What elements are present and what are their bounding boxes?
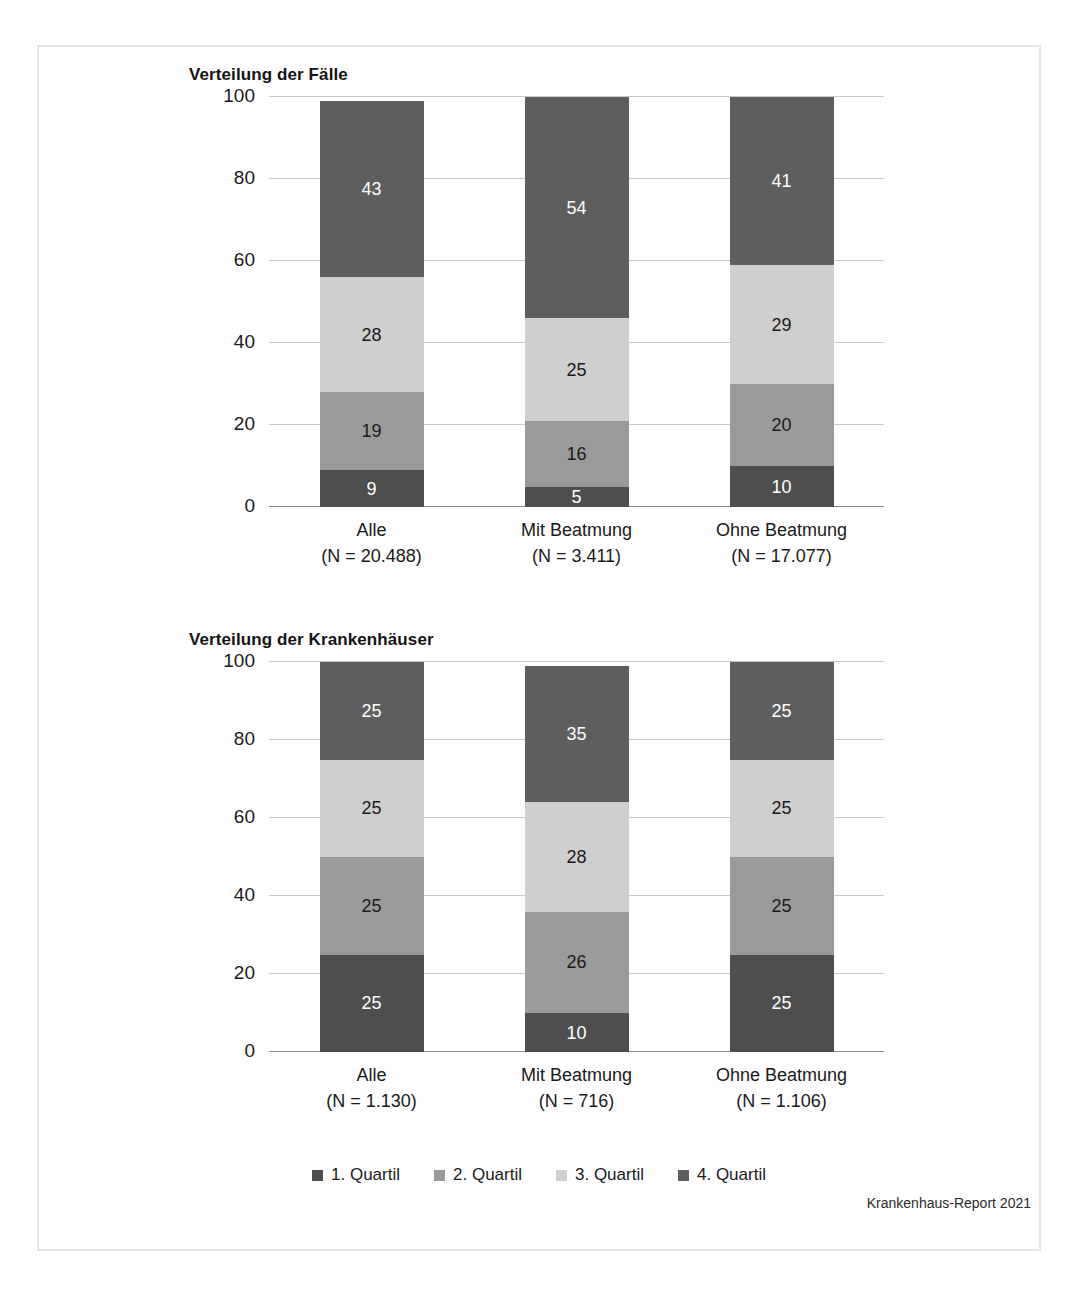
bar-segment[interactable]: 28 xyxy=(525,802,629,911)
y-axis-tick-label: 40 xyxy=(234,884,255,906)
stacked-bar[interactable]: 25252525 xyxy=(730,662,834,1052)
bar-segment[interactable]: 25 xyxy=(320,760,424,858)
legend-label: 1. Quartil xyxy=(331,1165,400,1185)
bar-segment[interactable]: 10 xyxy=(525,1013,629,1052)
y-axis-tick-label: 80 xyxy=(234,728,255,750)
legend-item[interactable]: 3. Quartil xyxy=(556,1165,644,1185)
bar-segment[interactable]: 16 xyxy=(525,421,629,487)
x-axis-category-label: Ohne Beatmung(N = 17.077) xyxy=(687,517,877,569)
category-count: (N = 17.077) xyxy=(687,543,877,569)
category-count: (N = 3.411) xyxy=(482,543,672,569)
legend-label: 4. Quartil xyxy=(697,1165,766,1185)
bar-segment[interactable]: 35 xyxy=(525,666,629,803)
x-axis-category-label: Mit Beatmung(N = 3.411) xyxy=(482,517,672,569)
category-name: Mit Beatmung xyxy=(521,1065,632,1085)
chart-title: Verteilung der Krankenhäuser xyxy=(189,630,434,650)
axis-area: 020406080100 9192843516255410202941 xyxy=(269,97,884,507)
source-note: Krankenhaus-Report 2021 xyxy=(867,1195,1031,1211)
plot-area: 020406080100 9192843516255410202941 xyxy=(39,97,1039,507)
bar-segment[interactable]: 5 xyxy=(525,487,629,508)
y-axis-tick-label: 20 xyxy=(234,413,255,435)
x-axis-category-label: Mit Beatmung(N = 716) xyxy=(482,1062,672,1114)
bars-row: 252525251026283525252525 xyxy=(269,662,884,1052)
bar-segment[interactable]: 29 xyxy=(730,265,834,384)
bar-segment[interactable]: 25 xyxy=(525,318,629,421)
plot-area: 020406080100 252525251026283525252525 xyxy=(39,662,1039,1052)
bar-segment[interactable]: 28 xyxy=(320,277,424,392)
bar-segment[interactable]: 9 xyxy=(320,470,424,507)
stacked-bar[interactable]: 5162554 xyxy=(525,97,629,507)
category-name: Alle xyxy=(356,1065,386,1085)
chart-verteilung-der-krankenhaeuser: Verteilung der Krankenhäuser 02040608010… xyxy=(39,630,1039,1130)
category-labels: Alle(N = 1.130)Mit Beatmung(N = 716)Ohne… xyxy=(269,1062,884,1114)
y-axis-tick-label: 100 xyxy=(223,85,255,107)
bar-segment[interactable]: 25 xyxy=(730,760,834,858)
legend: 1. Quartil2. Quartil3. Quartil4. Quartil xyxy=(39,1165,1039,1185)
legend-swatch-icon xyxy=(678,1170,689,1181)
category-name: Ohne Beatmung xyxy=(716,1065,847,1085)
bar-segment[interactable]: 20 xyxy=(730,384,834,466)
bar-segment[interactable]: 25 xyxy=(320,857,424,955)
y-axis-tick-label: 40 xyxy=(234,331,255,353)
category-count: (N = 1.106) xyxy=(687,1088,877,1114)
y-axis-tick-label: 80 xyxy=(234,167,255,189)
legend-swatch-icon xyxy=(434,1170,445,1181)
y-axis-tick-label: 60 xyxy=(234,249,255,271)
stacked-bar[interactable]: 10202941 xyxy=(730,97,834,507)
bar-segment[interactable]: 25 xyxy=(320,662,424,760)
bar-segment[interactable]: 25 xyxy=(730,955,834,1053)
y-axis-tick-label: 60 xyxy=(234,806,255,828)
category-count: (N = 20.488) xyxy=(277,543,467,569)
bar-segment[interactable]: 10 xyxy=(730,466,834,507)
figure-frame: Verteilung der Fälle 020406080100 919284… xyxy=(37,45,1041,1251)
stacked-bar[interactable]: 9192843 xyxy=(320,97,424,507)
bar-segment[interactable]: 25 xyxy=(730,662,834,760)
legend-swatch-icon xyxy=(312,1170,323,1181)
category-name: Mit Beatmung xyxy=(521,520,632,540)
legend-item[interactable]: 2. Quartil xyxy=(434,1165,522,1185)
x-axis-category-label: Alle(N = 1.130) xyxy=(277,1062,467,1114)
stacked-bar[interactable]: 25252525 xyxy=(320,662,424,1052)
axis-area: 020406080100 252525251026283525252525 xyxy=(269,662,884,1052)
chart-title: Verteilung der Fälle xyxy=(189,65,348,85)
legend-item[interactable]: 1. Quartil xyxy=(312,1165,400,1185)
stacked-bar[interactable]: 10262835 xyxy=(525,662,629,1052)
y-axis-tick-label: 20 xyxy=(234,962,255,984)
bar-segment[interactable]: 25 xyxy=(320,955,424,1053)
y-axis-tick-label: 100 xyxy=(223,650,255,672)
legend-item[interactable]: 4. Quartil xyxy=(678,1165,766,1185)
category-name: Ohne Beatmung xyxy=(716,520,847,540)
bars-row: 9192843516255410202941 xyxy=(269,97,884,507)
category-count: (N = 716) xyxy=(482,1088,672,1114)
legend-swatch-icon xyxy=(556,1170,567,1181)
legend-label: 3. Quartil xyxy=(575,1165,644,1185)
x-axis-category-label: Ohne Beatmung(N = 1.106) xyxy=(687,1062,877,1114)
y-axis-tick-label: 0 xyxy=(244,1040,255,1062)
legend-label: 2. Quartil xyxy=(453,1165,522,1185)
bar-segment[interactable]: 26 xyxy=(525,912,629,1013)
bar-segment[interactable]: 19 xyxy=(320,392,424,470)
category-count: (N = 1.130) xyxy=(277,1088,467,1114)
bar-segment[interactable]: 54 xyxy=(525,97,629,318)
bar-segment[interactable]: 41 xyxy=(730,97,834,265)
x-axis-category-label: Alle(N = 20.488) xyxy=(277,517,467,569)
bar-segment[interactable]: 25 xyxy=(730,857,834,955)
y-axis-tick-label: 0 xyxy=(244,495,255,517)
category-labels: Alle(N = 20.488)Mit Beatmung(N = 3.411)O… xyxy=(269,517,884,569)
bar-segment[interactable]: 43 xyxy=(320,101,424,277)
category-name: Alle xyxy=(356,520,386,540)
chart-verteilung-der-faelle: Verteilung der Fälle 020406080100 919284… xyxy=(39,65,1039,635)
